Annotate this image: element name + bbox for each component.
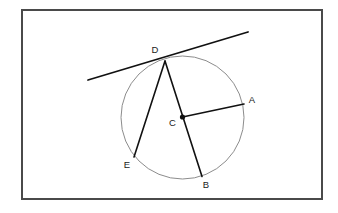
center-point-marker: [180, 114, 185, 119]
vertex-label-D: D: [152, 44, 159, 55]
vertex-label-A: A: [249, 94, 256, 105]
vertex-label-C: C: [169, 117, 176, 128]
geometry-diagram: ABCDE: [0, 0, 338, 213]
geometry-canvas: ABCDE: [0, 0, 338, 213]
vertex-label-B: B: [203, 179, 209, 190]
outer-border: [22, 10, 322, 199]
vertex-label-E: E: [124, 159, 130, 170]
